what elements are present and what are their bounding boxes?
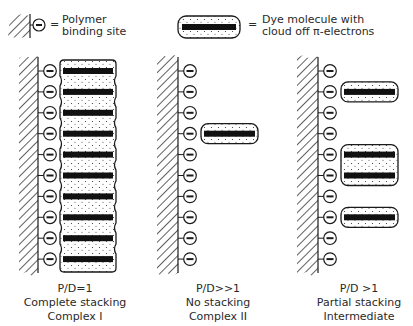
binding-site-icon xyxy=(318,65,336,78)
dye-bar xyxy=(63,110,113,116)
dye-bar xyxy=(63,131,113,137)
description-label: Partial stacking xyxy=(294,296,413,310)
dye-bar xyxy=(63,193,113,199)
panel-complex-1 xyxy=(19,55,116,276)
binding-site-icon xyxy=(38,127,56,140)
binding-site-icon xyxy=(318,253,336,266)
dye-bar xyxy=(63,235,113,241)
binding-site-icon xyxy=(38,211,56,224)
binding-site-icon xyxy=(38,148,56,161)
binding-site-icon xyxy=(38,107,56,120)
caption-complex-1: P/D=1 Complete stacking Complex I xyxy=(10,282,140,324)
dye-molecule-icon xyxy=(341,207,398,227)
binding-site-icon xyxy=(318,169,336,182)
name-label: Complex II xyxy=(153,310,283,324)
dye-molecule-icon xyxy=(341,82,398,102)
dye-molecule-icon xyxy=(341,145,398,186)
caption-intermediate: P/D >1 Partial stacking Intermediate xyxy=(294,282,413,324)
binding-site-icon xyxy=(178,148,196,161)
binding-site-icon xyxy=(318,127,336,140)
legend-equals-1: = xyxy=(50,19,59,31)
name-label: Complex I xyxy=(10,310,140,324)
binding-site-icon xyxy=(38,86,56,99)
binding-site-icon xyxy=(38,169,56,182)
dye-bar xyxy=(63,173,113,179)
legend-dye-molecule-icon xyxy=(178,16,240,38)
binding-site-icon xyxy=(318,107,336,120)
binding-site-icon xyxy=(38,232,56,245)
binding-site-icon xyxy=(178,86,196,99)
dye-bar xyxy=(63,152,113,158)
binding-site-icon xyxy=(178,169,196,182)
dye-bar xyxy=(63,256,113,262)
binding-site-icon xyxy=(178,253,196,266)
caption-complex-2: P/D>>1 No stacking Complex II xyxy=(153,282,283,324)
legend-binding-site-label-2: binding site xyxy=(62,26,126,38)
ratio-label: P/D>>1 xyxy=(153,282,283,296)
legend-binding-site-icon xyxy=(8,14,45,38)
binding-site-icon xyxy=(178,211,196,224)
binding-site-icon xyxy=(178,107,196,120)
binding-site-icon xyxy=(318,190,336,203)
binding-site-icon xyxy=(318,232,336,245)
binding-site-icon xyxy=(178,127,196,140)
binding-site-icon xyxy=(178,190,196,203)
dye-bar xyxy=(63,214,113,220)
ratio-label: P/D >1 xyxy=(294,282,413,296)
dye-bar xyxy=(63,68,113,74)
binding-site-icon xyxy=(318,211,336,224)
panel-complex-2 xyxy=(157,55,258,276)
ratio-label: P/D=1 xyxy=(10,282,140,296)
binding-site-icon xyxy=(38,65,56,78)
panel-intermediate xyxy=(297,55,398,276)
legend-equals-2: = xyxy=(248,19,257,31)
binding-site-icon xyxy=(318,148,336,161)
binding-site-icon xyxy=(38,253,56,266)
description-label: No stacking xyxy=(153,296,283,310)
name-label: Intermediate xyxy=(294,310,413,324)
dye-bar xyxy=(63,89,113,95)
legend-dye-label-2: cloud off π-electrons xyxy=(262,26,374,38)
binding-site-icon xyxy=(178,232,196,245)
binding-site-icon xyxy=(38,190,56,203)
diagram-canvas xyxy=(0,0,413,326)
binding-site-icon xyxy=(178,65,196,78)
binding-site-icon xyxy=(318,86,336,99)
description-label: Complete stacking xyxy=(10,296,140,310)
dye-molecule-icon xyxy=(201,124,258,144)
